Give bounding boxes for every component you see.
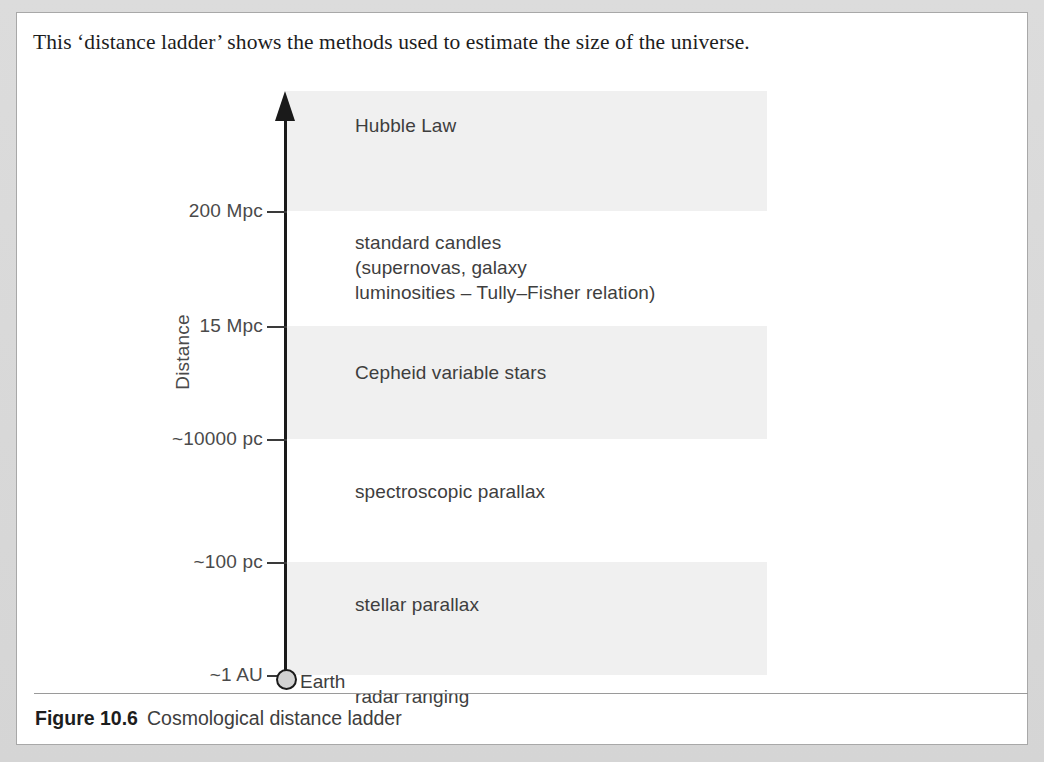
tick-label-200-mpc: 200 Mpc [77,200,263,222]
caption-figure-number: Figure 10.6 [35,707,138,729]
band-label-cepheid-variable-stars: Cepheid variable stars [355,360,546,385]
figure-caption: Figure 10.6Cosmological distance ladder [35,707,402,730]
page-background: This ‘distance ladder’ shows the methods… [0,0,1044,762]
tick-label-1-au: ~1 AU [77,664,263,686]
tick-mark-200-mpc [267,211,287,213]
axis-title-distance: Distance [172,292,194,412]
distance-axis-line [284,119,287,681]
band-hubble-law [286,91,767,211]
band-label-stellar-parallax: stellar parallax [355,592,479,617]
tick-mark-10000-pc [267,439,287,441]
tick-label-100-pc: ~100 pc [77,551,263,573]
earth-origin-marker [276,669,297,690]
band-label-hubble-law: Hubble Law [355,113,456,138]
distance-ladder-diagram: Distance 200 Mpc 15 Mpc ~10000 pc ~100 p… [17,71,1027,693]
figure-content-box: This ‘distance ladder’ shows the methods… [16,12,1028,745]
earth-origin-label: Earth [300,671,345,693]
band-label-spectroscopic-parallax: spectroscopic parallax [355,479,545,504]
caption-title-text: Cosmological distance ladder [147,707,402,729]
band-label-standard-candles: standard candles (supernovas, galaxy lum… [355,230,655,305]
header-sentence: This ‘distance ladder’ shows the methods… [33,30,993,55]
band-label-radar-ranging: radar ranging [355,684,469,709]
tick-mark-15-mpc [267,326,287,328]
caption-divider [34,693,1028,694]
tick-mark-100-pc [267,562,287,564]
band-stellar-parallax [286,562,767,675]
axis-arrowhead [275,91,295,121]
tick-label-10000-pc: ~10000 pc [77,428,263,450]
tick-label-15-mpc: 15 Mpc [77,315,263,337]
